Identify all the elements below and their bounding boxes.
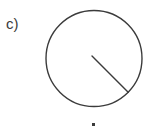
radius-segment bbox=[92, 56, 128, 92]
figure-container: c) bbox=[0, 0, 146, 130]
circle-diagram-svg bbox=[0, 0, 146, 130]
trailing-dot bbox=[92, 123, 95, 126]
